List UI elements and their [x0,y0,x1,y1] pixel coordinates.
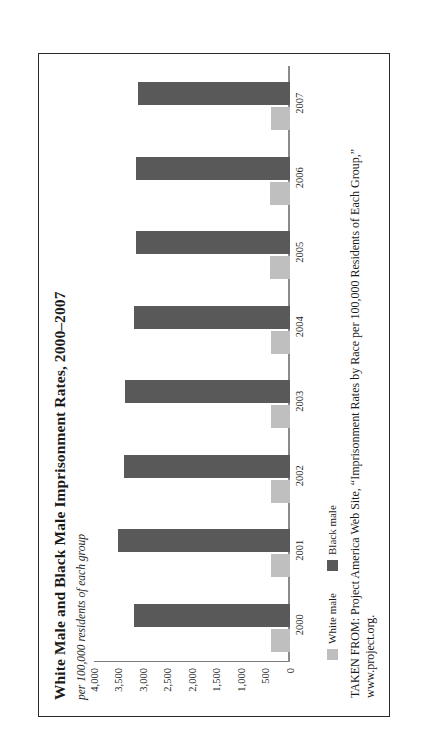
bar-black-male-2005 [136,231,289,254]
bar-white-male-2007 [271,107,290,130]
bar-white-male-2004 [271,330,290,353]
bar-black-male-2006 [136,156,289,179]
bar-black-male-2004 [134,305,290,328]
y-tick-label: 2,000 [186,668,197,692]
bar-white-male-2005 [270,256,290,279]
bar-white-male-2006 [270,181,290,204]
source-note: TAKEN FROM: Project America Web Site, “I… [348,68,379,698]
y-tick-label: 3,000 [137,668,148,692]
x-axis-tick-labels: 20002001200220032004200520062007 [292,66,310,662]
bar-group-2004 [94,293,290,359]
y-tick-label: 4,000 [88,668,99,692]
legend-item-black-male: Black male [326,505,338,571]
rotated-figure-container: White Male and Black Male Imprisonment R… [30,25,402,725]
chart-legend: White maleBlack male [324,68,340,660]
bar-group-2000 [94,591,290,657]
bar-group-2005 [94,219,290,285]
legend-item-white-male: White male [326,592,338,659]
legend-label: Black male [326,505,338,555]
page-canvas: White Male and Black Male Imprisonment R… [0,0,432,749]
bar-white-male-2003 [271,405,290,428]
plot-wrapper: 4,0003,5003,0002,5002,0001,5001,0005000 … [94,60,320,700]
figure-border-box: White Male and Black Male Imprisonment R… [38,53,390,717]
bar-white-male-2002 [271,479,290,502]
y-tick-label: 1,000 [235,668,246,692]
y-tick-label: 2,500 [162,668,173,692]
bar-group-2007 [94,70,290,136]
source-url: www.project.org. [363,68,378,698]
figure-title: White Male and Black Male Imprisonment R… [51,68,68,700]
bar-white-male-2001 [271,554,290,577]
bar-black-male-2007 [138,82,289,105]
bar-white-male-2000 [271,628,289,651]
x-tick-label-2002: 2002 [294,442,305,508]
bars-layer [94,66,290,662]
bar-group-2006 [94,144,290,210]
bar-black-male-2001 [118,529,290,552]
bar-black-male-2000 [134,603,290,626]
legend-swatch-icon [327,559,338,570]
y-axis-tick-labels: 4,0003,5003,0002,5002,0001,5001,0005000 [94,664,290,700]
legend-swatch-icon [327,649,338,660]
x-tick-label-2000: 2000 [294,591,305,657]
x-tick-label-2004: 2004 [294,293,305,359]
source-note-text: TAKEN FROM: Project America Web Site, “I… [348,148,362,697]
x-tick-label-2003: 2003 [294,368,305,434]
bar-group-2002 [94,442,290,508]
figure-content: White Male and Black Male Imprisonment R… [39,54,389,716]
figure-subtitle: per 100,000 residents of each group [75,68,88,700]
y-tick-label: 1,500 [211,668,222,692]
bar-black-male-2002 [124,454,290,477]
plot-area [94,66,290,662]
x-tick-label-2001: 2001 [294,517,305,583]
bar-group-2003 [94,368,290,434]
y-tick-label: 0 [284,668,295,673]
y-tick-label: 500 [260,668,271,684]
x-tick-label-2005: 2005 [294,219,305,285]
legend-label: White male [326,592,338,643]
x-tick-label-2007: 2007 [294,70,305,136]
bar-group-2001 [94,517,290,583]
x-tick-label-2006: 2006 [294,144,305,210]
y-tick-label: 3,500 [113,668,124,692]
bar-black-male-2003 [125,380,290,403]
